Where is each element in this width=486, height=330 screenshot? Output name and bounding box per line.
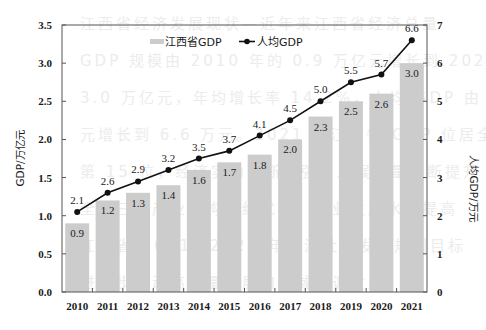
right-axis-tick-label: 5 [437, 95, 443, 107]
x-axis-tick-label: 2021 [401, 300, 423, 312]
bar-2020 [369, 94, 393, 292]
legend-line-marker [244, 39, 250, 45]
x-axis-tick-label: 2015 [218, 300, 241, 312]
line-value-label: 2.9 [131, 163, 145, 175]
right-axis-tick-label: 0 [437, 286, 443, 298]
chart: 0.00.51.01.52.02.53.03.50123456720102011… [0, 0, 486, 330]
bar-value-label: 2.6 [375, 98, 389, 110]
line-value-label: 3.2 [162, 152, 176, 164]
bar-2013 [156, 185, 180, 292]
bar-2016 [248, 155, 272, 292]
line-marker [74, 209, 80, 215]
line-value-label: 3.5 [192, 141, 206, 153]
line-marker [318, 98, 324, 104]
bar-2014 [187, 170, 211, 292]
right-axis-tick-label: 6 [437, 57, 443, 69]
legend-bar-label: 江西省GDP [165, 36, 222, 49]
right-axis-tick-label: 7 [437, 19, 443, 31]
line-marker [196, 156, 202, 162]
line-value-label: 5.5 [344, 64, 358, 76]
line-value-label: 2.1 [70, 194, 84, 206]
x-axis-tick-label: 2011 [97, 300, 118, 312]
line-value-label: 2.6 [101, 175, 115, 187]
bar-value-label: 1.3 [131, 197, 145, 209]
left-axis-tick-label: 3.5 [38, 19, 52, 31]
bar-value-label: 1.6 [192, 174, 206, 186]
left-axis-title: GDP/万亿元 [14, 129, 26, 186]
bar-value-label: 1.2 [101, 204, 115, 216]
bar-value-label: 2.0 [283, 143, 297, 155]
bar-value-label: 2.3 [314, 121, 328, 133]
bar-value-label: 1.8 [253, 159, 267, 171]
x-axis-tick-label: 2019 [340, 300, 363, 312]
right-axis-tick-label: 3 [437, 172, 443, 184]
bar-value-label: 3.0 [405, 67, 419, 79]
legend-bar-swatch [150, 39, 164, 44]
left-axis-tick-label: 1.5 [38, 172, 52, 184]
line-marker [378, 72, 384, 78]
line-marker [165, 167, 171, 173]
x-axis-tick-label: 2010 [66, 300, 89, 312]
left-axis-tick-label: 3.0 [38, 57, 52, 69]
x-axis-tick-label: 2012 [127, 300, 150, 312]
line-marker [348, 79, 354, 85]
bar-2017 [278, 139, 302, 292]
right-axis-tick-label: 1 [437, 248, 443, 260]
left-axis-tick-label: 2.5 [38, 95, 52, 107]
bar-2018 [309, 117, 333, 292]
line-marker [105, 190, 111, 196]
line-value-label: 6.6 [405, 22, 419, 34]
bar-2021 [400, 63, 424, 292]
right-axis-title: 人均GDP/万元 [468, 155, 480, 222]
bar-value-label: 1.7 [222, 166, 236, 178]
bar-value-label: 2.5 [344, 105, 358, 117]
bar-value-label: 1.4 [162, 189, 176, 201]
bar-2015 [217, 162, 241, 292]
x-axis-tick-label: 2020 [370, 300, 393, 312]
left-axis-tick-label: 1.0 [38, 210, 52, 222]
line-value-label: 3.7 [222, 133, 236, 145]
line-marker [226, 148, 232, 154]
left-axis-tick-label: 0.0 [38, 286, 52, 298]
legend-line-label: 人均GDP [257, 36, 303, 49]
x-axis-tick-label: 2014 [188, 300, 211, 312]
x-axis-tick-label: 2013 [157, 300, 180, 312]
line-marker [287, 117, 293, 123]
left-axis-tick-label: 2.0 [38, 133, 52, 145]
right-axis-tick-label: 4 [437, 133, 443, 145]
bar-2019 [339, 101, 363, 292]
line-value-label: 4.5 [283, 102, 297, 114]
line-marker [257, 133, 263, 139]
line-value-label: 4.1 [253, 118, 267, 130]
left-axis-tick-label: 0.5 [38, 248, 52, 260]
x-axis-tick-label: 2018 [310, 300, 333, 312]
line-value-label: 5.0 [314, 83, 328, 95]
x-axis-tick-label: 2017 [279, 300, 302, 312]
line-value-label: 5.7 [375, 57, 389, 69]
line-marker [409, 37, 415, 43]
right-axis-tick-label: 2 [437, 210, 443, 222]
x-axis-tick-label: 2016 [249, 300, 272, 312]
line-marker [135, 178, 141, 184]
bar-value-label: 0.9 [70, 227, 84, 239]
